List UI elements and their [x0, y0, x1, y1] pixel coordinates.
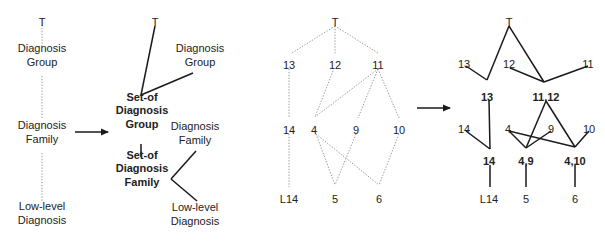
node-n14: 14 — [283, 124, 295, 136]
edge — [335, 26, 378, 53]
node-s4-10: 4,10 — [564, 155, 585, 167]
node-n10: 10 — [393, 124, 405, 136]
node-label-line: 14 — [458, 123, 470, 135]
node-n9: 9 — [548, 123, 554, 135]
node-label-line: 13 — [458, 58, 470, 70]
edge — [509, 131, 575, 147]
edge — [335, 134, 356, 185]
node-label-line: 11 — [372, 59, 383, 71]
edge — [141, 26, 155, 95]
edge — [171, 179, 197, 201]
node-label-line: 10 — [393, 124, 405, 136]
node-label-line: Group — [27, 56, 58, 68]
node-low-level: Low-levelDiagnosis — [18, 200, 67, 226]
nodes-layer: TDiagnosisGroupDiagnosisFamilyLow-levelD… — [18, 16, 595, 227]
node-l14: L14 — [480, 193, 498, 205]
node-diag-group: DiagnosisGroup — [176, 42, 225, 68]
node-label-line: 14 — [483, 155, 496, 167]
node-label-line: 4,9 — [518, 155, 533, 167]
panel-set-of-hierarchy-nodes: TDiagnosisGroupSet-ofDiagnosisGroupDiagn… — [116, 16, 225, 227]
node-label-line: 13 — [283, 59, 295, 71]
node-n12: 12 — [503, 58, 515, 70]
node-n6: 6 — [376, 193, 382, 205]
node-l14: L14 — [280, 193, 298, 205]
node-label-line: 6 — [376, 193, 382, 205]
node-label-line: L14 — [480, 193, 498, 205]
node-n12: 12 — [329, 59, 341, 71]
panel-instance-lattice-nodes: T131211144910L1456 — [280, 16, 405, 205]
diagram-canvas: TDiagnosisGroupDiagnosisFamilyLow-levelD… — [0, 0, 605, 241]
edge — [487, 26, 509, 80]
node-label-line: 11,12 — [533, 91, 560, 103]
node-n6: 6 — [572, 193, 578, 205]
node-n5: 5 — [332, 193, 338, 205]
node-label-line: Family — [26, 133, 59, 145]
node-label-line: L14 — [280, 193, 298, 205]
node-label-line: 5 — [332, 193, 338, 205]
node-label-line: 12 — [503, 58, 515, 70]
node-label-line: T — [506, 16, 513, 28]
node-label-line: 12 — [329, 59, 341, 71]
node-s14: 14 — [483, 155, 496, 167]
node-n11: 11 — [372, 59, 383, 71]
node-s4-9: 4,9 — [518, 155, 533, 167]
node-s11-12: 11,12 — [533, 91, 560, 103]
node-label-line: Group — [126, 118, 159, 130]
edge — [489, 100, 490, 149]
node-label-line: 4 — [311, 124, 317, 136]
node-low-level: Low-levelDiagnosis — [171, 201, 220, 227]
edge — [171, 151, 196, 179]
node-label-line: 14 — [283, 124, 295, 136]
node-label-line: Diagnosis — [116, 104, 169, 116]
node-top: T — [39, 16, 46, 28]
node-diag-group: DiagnosisGroup — [18, 42, 67, 68]
node-n9: 9 — [353, 124, 359, 136]
node-label-line: 10 — [583, 123, 595, 135]
node-n4: 4 — [311, 124, 317, 136]
node-label-line: 13 — [481, 91, 493, 103]
node-label-line: 9 — [353, 124, 359, 136]
node-label-line: 11 — [582, 58, 593, 70]
node-label-line: Diagnosis — [18, 214, 67, 226]
node-label-line: 6 — [572, 193, 578, 205]
node-label-line: Diagnosis — [171, 215, 220, 227]
panel-instance-lattice-edges — [289, 26, 399, 187]
node-s13: 13 — [481, 91, 493, 103]
node-n13: 13 — [458, 58, 470, 70]
edge — [509, 26, 544, 82]
node-label-line: 9 — [548, 123, 554, 135]
node-top: T — [332, 16, 339, 28]
node-label-line: 4 — [505, 123, 511, 135]
node-label-line: Diagnosis — [116, 162, 169, 174]
node-label-line: Diagnosis — [18, 42, 67, 54]
edge — [379, 134, 399, 185]
node-label-line: Low-level — [172, 201, 218, 213]
node-label-line: Family — [179, 134, 212, 146]
node-label-line: Set-of — [126, 91, 158, 103]
node-label-line: Family — [125, 176, 161, 188]
node-label-line: 4,10 — [564, 155, 585, 167]
node-n4: 4 — [505, 123, 511, 135]
node-label-line: T — [332, 16, 339, 28]
node-label-line: Low-level — [19, 200, 65, 212]
node-top: T — [152, 16, 159, 28]
node-label-line: T — [152, 16, 159, 28]
node-diag-family: DiagnosisFamily — [18, 119, 67, 145]
node-n11: 11 — [582, 58, 593, 70]
node-label-line: Diagnosis — [171, 120, 220, 132]
node-n10: 10 — [583, 123, 595, 135]
node-label-line: Diagnosis — [18, 119, 67, 131]
node-label-line: Group — [185, 56, 216, 68]
node-label-line: 5 — [523, 193, 529, 205]
node-n5: 5 — [523, 193, 529, 205]
node-label-line: Set-of — [126, 149, 158, 161]
node-diag-family: DiagnosisFamily — [171, 120, 220, 146]
node-set-of-family: Set-ofDiagnosisFamily — [116, 149, 169, 188]
node-n14: 14 — [458, 123, 470, 135]
edge — [292, 26, 335, 53]
node-label-line: T — [39, 16, 46, 28]
node-top: T — [506, 16, 513, 28]
node-set-of-group: Set-ofDiagnosisGroup — [116, 91, 169, 130]
node-n13: 13 — [283, 59, 295, 71]
node-label-line: Diagnosis — [176, 42, 225, 54]
